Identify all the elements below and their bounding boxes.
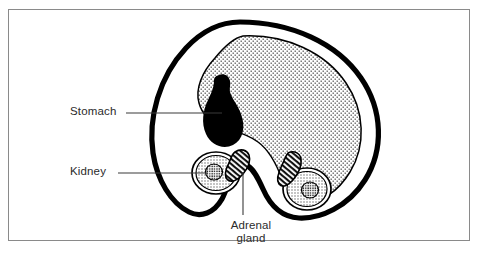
label-adrenal-line-1: Adrenal (215, 219, 287, 232)
kidney-right-medulla (302, 182, 319, 198)
label-adrenal-line-2: gland (215, 232, 287, 245)
figure-root: Stomach Kidney Adrenal gland (0, 0, 480, 259)
label-kidney: Kidney (70, 165, 106, 177)
label-adrenal-gland: Adrenal gland (215, 219, 287, 245)
label-stomach: Stomach (70, 105, 116, 117)
kidney-left-medulla (206, 164, 223, 180)
